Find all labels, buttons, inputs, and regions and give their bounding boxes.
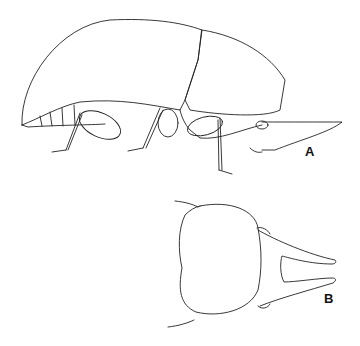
panel-b-dorsal-view (168, 201, 336, 327)
beetle-illustration (0, 0, 360, 346)
mid-femur (158, 109, 178, 137)
panel-label-a: A (305, 144, 314, 159)
pronotum (185, 30, 285, 115)
panel-label-b: B (324, 291, 333, 306)
panel-a-lateral-view (22, 19, 342, 174)
abdomen (22, 124, 105, 127)
hind-leg (218, 118, 232, 174)
figure-canvas: A B (0, 0, 360, 346)
hind-femur (185, 113, 224, 140)
elytron (22, 19, 202, 125)
mid-leg (128, 108, 163, 151)
head-capsule (179, 204, 261, 314)
rostrum (262, 122, 342, 150)
front-leg (52, 113, 82, 152)
